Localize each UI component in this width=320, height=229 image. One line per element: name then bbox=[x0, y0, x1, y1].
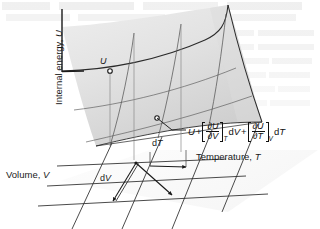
equation-plus-2: + bbox=[240, 126, 248, 137]
state-point-label: U bbox=[100, 57, 107, 66]
equation-term-2: ∂U ∂T V dT bbox=[248, 122, 285, 142]
term-2-subscript: V bbox=[269, 135, 273, 142]
equation-base-term: U bbox=[188, 126, 195, 137]
equation-plus-1: + bbox=[195, 126, 203, 137]
partial-derivative-u-v: ∂U ∂V bbox=[205, 122, 220, 142]
x-axis-label-prefix: Temperature, bbox=[196, 151, 255, 162]
internal-energy-surface-figure: Internal energy, U Temperature, T Volume… bbox=[0, 0, 320, 229]
term-2-differential-symbol: T bbox=[279, 126, 285, 137]
dv-label: dV bbox=[100, 174, 111, 183]
total-differential-equation: U + ∂U ∂V T dV + ∂U ∂T V dT bbox=[188, 122, 285, 142]
partial-derivative-u-t: ∂U ∂T bbox=[251, 122, 266, 142]
dv-label-symbol: V bbox=[105, 173, 111, 183]
dt-label: dT bbox=[152, 139, 163, 148]
z-axis-label-symbol: V bbox=[43, 169, 49, 180]
term-2-denominator: ∂T bbox=[252, 132, 264, 141]
y-axis-label-symbol: U bbox=[53, 30, 64, 37]
dt-label-symbol: T bbox=[157, 138, 163, 148]
z-axis-label: Volume, V bbox=[6, 170, 49, 180]
z-axis-label-prefix: Volume, bbox=[6, 169, 43, 180]
y-axis-label-prefix: Internal energy, bbox=[53, 37, 64, 105]
state-point-marker bbox=[108, 69, 113, 74]
term-1-subscript: T bbox=[223, 135, 227, 142]
y-axis-label: Internal energy, U bbox=[54, 30, 64, 105]
x-axis-label: Temperature, T bbox=[196, 152, 260, 162]
x-axis-label-symbol: T bbox=[255, 151, 261, 162]
equation-term-1: ∂U ∂V T dV bbox=[202, 122, 240, 142]
term-1-denominator: ∂V bbox=[207, 132, 219, 141]
diagram-canvas bbox=[0, 0, 320, 229]
